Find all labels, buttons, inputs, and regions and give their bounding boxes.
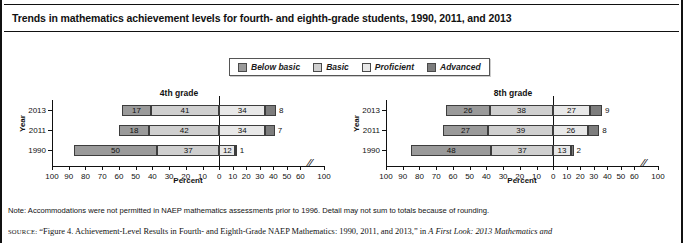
x-axis-label: Percent (386, 176, 658, 185)
y-axis-label: Year (18, 115, 27, 132)
advanced-value-label: 2 (577, 145, 581, 156)
y-axis-tick-label: 2013 (28, 106, 46, 115)
bar-segment-below-basic: 50 (74, 145, 158, 156)
x-axis-tick (486, 166, 487, 170)
legend-swatch-icon (313, 63, 322, 72)
source-quote: “Figure 4. Achievement-Level Results in … (39, 227, 417, 236)
x-axis-tick (658, 166, 659, 170)
chart-panel-4th-grade: 4th gradeYear201320111990100908070605040… (20, 88, 338, 193)
x-axis-tick (386, 166, 387, 170)
bar-segment-proficient: 26 (553, 125, 588, 136)
bar-segment-proficient: 27 (553, 105, 589, 116)
advanced-value-label: 9 (605, 105, 609, 116)
bar-segment-proficient: 12 (219, 145, 235, 156)
x-axis-tick (260, 166, 261, 170)
bar-value-label: 27 (567, 106, 576, 115)
advanced-value-label: 8 (602, 125, 606, 136)
x-axis-tick (436, 166, 437, 170)
bar-value-label: 37 (518, 146, 527, 155)
x-axis-tick (621, 166, 622, 170)
advanced-value-label: 1 (240, 145, 244, 156)
legend-swatch-icon (362, 63, 371, 72)
legend-label: Below basic (251, 62, 300, 72)
bar-row: 2638279 (386, 105, 658, 116)
x-axis-line (386, 166, 658, 167)
x-axis-tick (152, 166, 153, 170)
source-publication: A First Look: 2013 Mathematics and (428, 227, 552, 236)
chart-title: 4th grade (20, 88, 338, 98)
figure-note: Note: Accommodations were not permitted … (8, 206, 675, 215)
x-axis-tick (119, 166, 120, 170)
x-axis-tick (580, 166, 581, 170)
advanced-value-label: 7 (278, 125, 282, 136)
legend-item: Advanced (427, 62, 481, 72)
bar-row: 4837132 (386, 145, 658, 156)
chart-legend: Below basicBasicProficientAdvanced (229, 58, 490, 76)
axis-break-icon: // (307, 158, 311, 169)
figure-container: Trends in mathematics achievement levels… (0, 0, 683, 243)
source-in: in (420, 227, 427, 236)
bar-value-label: 17 (132, 106, 141, 115)
x-axis-tick (503, 166, 504, 170)
bar-segment-below-basic: 17 (122, 105, 150, 116)
bar-value-label: 48 (447, 146, 456, 155)
bar-value-label: 38 (517, 106, 526, 115)
axis-break-icon: // (641, 158, 645, 169)
plot-area: 2013201119901009080706050403020100102030… (386, 100, 658, 166)
bar-segment-basic: 37 (491, 145, 553, 156)
x-axis-tick (102, 166, 103, 170)
bar-value-label: 27 (461, 126, 470, 135)
legend-swatch-icon (427, 63, 436, 72)
bar-segment-below-basic: 48 (411, 145, 491, 156)
legend-item: Basic (313, 62, 349, 72)
bar-segment-advanced (235, 145, 237, 156)
legend-label: Basic (326, 62, 349, 72)
legend-label: Advanced (440, 62, 481, 72)
bar-segment-basic: 42 (149, 125, 219, 136)
bar-value-label: 13 (558, 146, 567, 155)
bar-value-label: 37 (184, 146, 193, 155)
x-axis-tick (520, 166, 521, 170)
x-axis-tick (85, 166, 86, 170)
bar-segment-proficient: 34 (219, 125, 265, 136)
bar-value-label: 42 (180, 126, 189, 135)
y-axis-tick-label: 2011 (29, 126, 46, 135)
bar-segment-basic: 39 (488, 125, 553, 136)
bar-row: 1741348 (52, 105, 324, 116)
bar-value-label: 39 (516, 126, 525, 135)
bar-segment-advanced (265, 105, 276, 116)
legend-item: Proficient (362, 62, 414, 72)
x-axis-tick (537, 166, 538, 170)
x-axis-tick (324, 166, 325, 170)
y-axis-tick-label: 2013 (362, 106, 380, 115)
bar-value-label: 34 (238, 126, 247, 135)
x-axis-tick (470, 166, 471, 170)
page-title: Trends in mathematics achievement levels… (4, 12, 511, 24)
y-axis-tick-label: 2011 (363, 126, 380, 135)
bar-row: 1842347 (52, 125, 324, 136)
bar-segment-basic: 37 (157, 145, 219, 156)
bar-value-label: 12 (223, 146, 232, 155)
x-axis-tick (169, 166, 170, 170)
bar-value-label: 26 (566, 126, 575, 135)
bar-segment-below-basic: 27 (443, 125, 488, 136)
x-axis-line (52, 166, 324, 167)
y-axis-label: Year (352, 115, 361, 132)
chart-panel-8th-grade: 8th gradeYear201320111990100908070605040… (354, 88, 672, 193)
chart-title: 8th grade (354, 88, 672, 98)
x-axis-tick (273, 166, 274, 170)
y-axis-tick-label: 1990 (28, 146, 46, 155)
x-axis-tick (634, 166, 635, 170)
figure-source: SOURCE: “Figure 4. Achievement-Level Res… (8, 227, 675, 236)
bar-segment-proficient: 34 (219, 105, 265, 116)
x-axis-tick (567, 166, 568, 170)
legend-swatch-icon (238, 63, 247, 72)
bar-segment-below-basic: 18 (119, 125, 149, 136)
bar-segment-basic: 41 (151, 105, 220, 116)
bar-segment-below-basic: 26 (446, 105, 489, 116)
bar-segment-advanced (571, 145, 574, 156)
bar-value-label: 50 (111, 146, 120, 155)
bar-row: 5037121 (52, 145, 324, 156)
legend-label: Proficient (375, 62, 414, 72)
legend-item: Below basic (238, 62, 300, 72)
